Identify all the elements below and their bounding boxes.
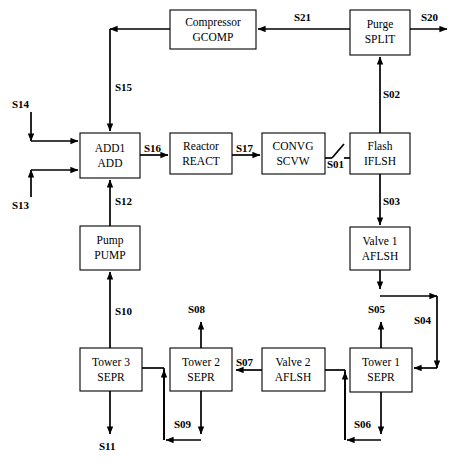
- unit-name-tower1: Tower 1: [362, 356, 400, 368]
- unit-block-pump[interactable]: Pump PUMP: [80, 226, 140, 270]
- stream-label-s04: S04: [414, 314, 432, 326]
- unit-code-reactor: REACT: [182, 155, 220, 167]
- unit-name-flash: Flash: [368, 140, 393, 152]
- unit-block-purge[interactable]: Purge SPLIT: [350, 10, 410, 55]
- process-flow-diagram: Compressor GCOMP Purge SPLIT ADD1 ADD Re…: [0, 0, 451, 464]
- stream-label-s12: S12: [115, 195, 133, 207]
- unit-code-compressor: GCOMP: [193, 31, 234, 43]
- stream-label-s17: S17: [236, 142, 254, 154]
- unit-block-convg[interactable]: CONVG SCVW: [262, 133, 325, 174]
- stream-label-s10: S10: [115, 305, 133, 317]
- unit-name-convg: CONVG: [273, 140, 314, 152]
- stream-label-s05: S05: [368, 303, 386, 315]
- stream-label-s07: S07: [236, 356, 254, 368]
- stream-label-s09: S09: [174, 418, 192, 430]
- unit-name-tower3: Tower 3: [92, 356, 130, 368]
- stream-label-s20: S20: [421, 11, 439, 23]
- unit-code-tower2: SEPR: [187, 371, 215, 383]
- switch-blade-icon: [332, 144, 344, 158]
- unit-code-add1: ADD: [98, 157, 123, 169]
- stream-label-s14: S14: [12, 98, 30, 110]
- unit-block-compressor[interactable]: Compressor GCOMP: [170, 10, 256, 49]
- stream-label-s21: S21: [294, 11, 311, 23]
- unit-name-reactor: Reactor: [183, 140, 219, 152]
- unit-code-tower3: SEPR: [97, 371, 125, 383]
- unit-block-tower3[interactable]: Tower 3 SEPR: [80, 348, 142, 391]
- unit-code-convg: SCVW: [276, 155, 309, 167]
- unit-name-valve2: Valve 2: [276, 356, 311, 368]
- stream-label-s02: S02: [383, 88, 401, 100]
- unit-name-add1: ADD1: [95, 142, 126, 154]
- stream-label-s11: S11: [99, 440, 116, 452]
- unit-block-tower1[interactable]: Tower 1 SEPR: [350, 348, 412, 392]
- unit-name-compressor: Compressor: [185, 16, 241, 29]
- unit-name-tower2: Tower 2: [182, 356, 220, 368]
- unit-block-reactor[interactable]: Reactor REACT: [170, 133, 232, 174]
- unit-code-valve1: AFLSH: [362, 250, 398, 262]
- stream-label-s06: S06: [354, 418, 372, 430]
- unit-name-purge: Purge: [367, 18, 394, 31]
- unit-block-valve1[interactable]: Valve 1 AFLSH: [350, 227, 410, 270]
- unit-block-tower2[interactable]: Tower 2 SEPR: [170, 348, 232, 391]
- stream-label-s01: S01: [327, 158, 344, 170]
- stream-label-s08: S08: [188, 303, 206, 315]
- unit-code-flash: IFLSH: [364, 155, 396, 167]
- unit-name-pump: Pump: [97, 234, 124, 247]
- unit-name-valve1: Valve 1: [363, 235, 398, 247]
- unit-code-tower1: SEPR: [367, 371, 395, 383]
- unit-block-add1[interactable]: ADD1 ADD: [80, 133, 140, 178]
- stream-label-s15: S15: [115, 81, 133, 93]
- unit-code-valve2: AFLSH: [275, 371, 311, 383]
- unit-block-valve2[interactable]: Valve 2 AFLSH: [262, 348, 325, 391]
- stream-label-s03: S03: [383, 195, 401, 207]
- stream-label-s13: S13: [12, 199, 30, 211]
- unit-code-purge: SPLIT: [365, 33, 396, 45]
- unit-code-pump: PUMP: [94, 249, 125, 261]
- unit-block-flash[interactable]: Flash IFLSH: [350, 133, 410, 174]
- stream-label-s16: S16: [144, 142, 162, 154]
